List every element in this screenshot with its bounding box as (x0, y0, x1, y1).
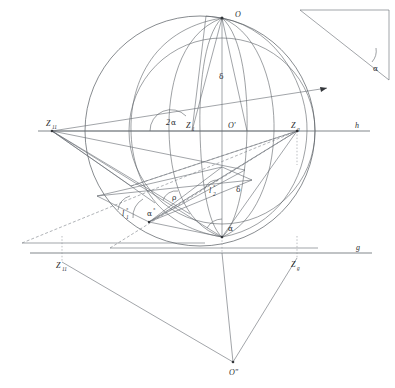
label-point-O: O (235, 10, 241, 19)
angle-arc-alpha-degree (133, 199, 143, 218)
label-angle-two-alpha-number: 2 (166, 118, 170, 127)
label-point-Zg-upper: Z (291, 121, 296, 130)
label-line-g: g (356, 243, 360, 252)
label-line-h: h (355, 121, 359, 130)
meridian-arcs-group (131, 18, 307, 237)
label-arc-l1: l (122, 209, 125, 218)
label-arc-l2-superscript: ° (213, 184, 216, 190)
triangle-edge-Zg-to-pole (222, 131, 297, 237)
label-point-Zg-lower: Z (291, 260, 296, 269)
dotted-projectors-group (62, 131, 297, 262)
dashed-line-P-to-Zg (149, 131, 297, 222)
label-point-Z11-upper: Z (46, 119, 51, 128)
ground-line-g-group (22, 243, 372, 253)
vertex-dots-group (51, 17, 299, 364)
dashed-line-Z11low-to-Zg (22, 131, 297, 243)
label-inset-angle-alpha: α (373, 64, 378, 73)
dot-point-O (221, 17, 224, 20)
lower-triangle-median (222, 253, 233, 362)
label-delta-upper: δ (219, 72, 224, 81)
label-point-O-prime: O' (228, 121, 236, 130)
triangle-base-lower (149, 222, 222, 237)
inset-angle-arc-alpha (372, 48, 376, 62)
label-rho: ρ (172, 193, 177, 202)
lower-triangle-right-edge (233, 258, 297, 362)
label-point-Zg-upper-subscript: g (297, 126, 300, 132)
ray-short-left-down (192, 16, 206, 131)
ray-arrowhead (320, 87, 327, 92)
labels-group: O O' Oʺ Z 1 Z 11 Z g Z 11 Z g h g (46, 10, 378, 377)
fan-line-1 (52, 131, 245, 170)
meridian-arc-left-inner (169, 18, 222, 237)
dot-point-bottom-pole (221, 236, 224, 239)
meridian-arc-center-left (200, 18, 222, 237)
label-point-Z11-lower-subscript: 11 (62, 266, 67, 272)
fan-lines-from-Z11-group (52, 131, 297, 237)
meridian-arc-left-outer (131, 18, 222, 237)
dot-point-O-double-prime (232, 361, 235, 364)
lower-triangle-left-edge (62, 262, 233, 362)
ray-O-to-right (222, 18, 247, 131)
label-point-Zg-lower-subscript: g (297, 265, 300, 271)
label-point-Z11-upper-subscript: 11 (52, 124, 57, 130)
label-point-O-double-prime: Oʺ (229, 368, 239, 377)
geometric-figure: O O' Oʺ Z 1 Z 11 Z g Z 11 Z g h g (0, 0, 395, 388)
label-arc-l1-subscript: 1 (126, 214, 129, 220)
triangle-edge-cross (149, 170, 245, 222)
label-arc-l2: l (209, 186, 212, 195)
label-delta-lower: δ (236, 185, 241, 194)
label-angle-alpha-degree-sup: ° (153, 207, 156, 213)
label-point-Z1-subscript: 1 (192, 126, 195, 132)
dot-point-Z11 (51, 130, 54, 133)
ray-O-short-left (206, 16, 222, 18)
dot-point-P (148, 221, 150, 223)
label-angle-two-alpha-greek: α (171, 118, 176, 127)
label-point-Z1: Z (186, 121, 191, 130)
diagram-root: O O' Oʺ Z 1 Z 11 Z g Z 11 Z g h g (0, 0, 395, 388)
lower-triangle-group (62, 253, 297, 362)
label-angle-alpha-bottom: α (228, 224, 233, 233)
label-point-Z11-lower: Z (56, 261, 61, 270)
label-angle-alpha-degree: α (147, 209, 152, 218)
label-arc-l2-subscript: 2 (213, 191, 216, 197)
